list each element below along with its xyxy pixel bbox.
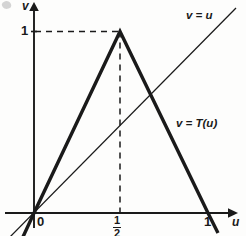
x-tick-label-1: 1 xyxy=(204,215,211,228)
y-tick-label-1: 1 xyxy=(21,24,28,37)
origin-label: 0 xyxy=(37,215,44,228)
v-axis-label: v xyxy=(22,0,29,12)
tent-map-label: v = T(u) xyxy=(176,118,217,130)
u-axis-label: u xyxy=(232,216,239,228)
x-tick-label-half: 1 2 xyxy=(113,215,121,236)
identity-line-label: v = u xyxy=(186,10,213,22)
v-axis xyxy=(29,2,39,228)
x-tick-half-denominator: 2 xyxy=(113,228,121,236)
x-tick-half-numerator: 1 xyxy=(113,215,121,228)
tent-map-figure: v u 1 0 1 1 2 v = u v = T(u) xyxy=(0,0,246,236)
